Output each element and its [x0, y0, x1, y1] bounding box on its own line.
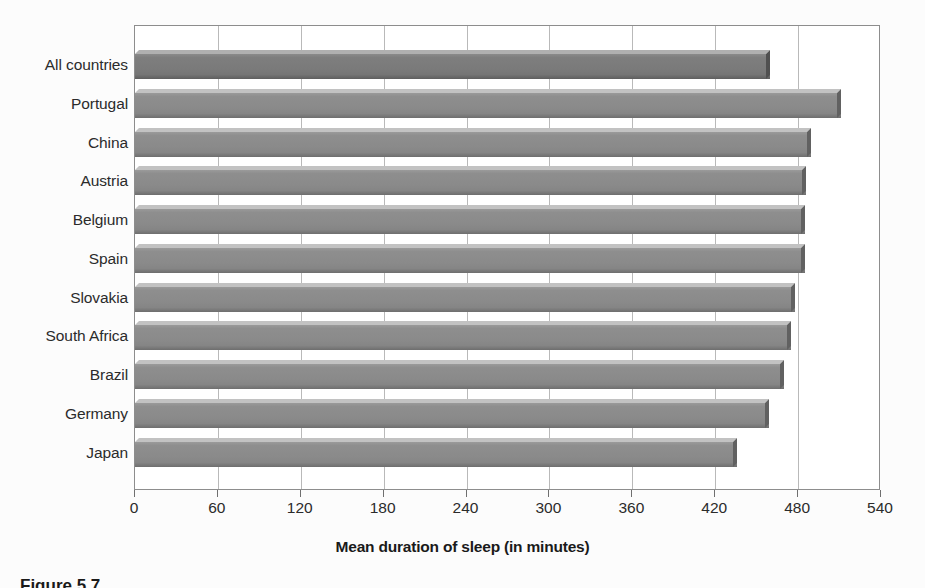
bar-row[interactable] [135, 205, 881, 235]
x-tick-label-240: 240 [453, 499, 479, 517]
y-axis-label-germany: Germany [0, 406, 128, 422]
y-axis-label-brazil: Brazil [0, 367, 128, 383]
x-tick-label-420: 420 [701, 499, 727, 517]
x-tick-label-120: 120 [287, 499, 313, 517]
x-tick-label-300: 300 [536, 499, 562, 517]
x-tick-mark-120 [300, 490, 301, 497]
y-axis-label-all-countries: All countries [0, 57, 128, 73]
bar-row[interactable] [135, 321, 881, 351]
plot-inner [135, 26, 879, 489]
x-tick-mark-300 [548, 490, 549, 497]
bar-south-africa[interactable] [135, 325, 791, 350]
x-tick-label-60: 60 [208, 499, 225, 517]
bar-row[interactable] [135, 166, 881, 196]
x-tick-mark-480 [797, 490, 798, 497]
bar-japan[interactable] [135, 442, 737, 467]
figure-caption: Figure 5.7 [20, 576, 100, 588]
x-tick-mark-420 [714, 490, 715, 497]
bar-row[interactable] [135, 89, 881, 119]
figure-container: All countriesPortugalChinaAustriaBelgium… [0, 0, 925, 588]
y-axis-label-slovakia: Slovakia [0, 290, 128, 306]
y-axis-label-austria: Austria [0, 173, 128, 189]
bar-slovakia[interactable] [135, 287, 795, 312]
x-tick-mark-180 [383, 490, 384, 497]
bar-row[interactable] [135, 438, 881, 468]
bar-austria[interactable] [135, 170, 806, 195]
y-axis-label-south-africa: South Africa [0, 328, 128, 344]
x-tick-label-0: 0 [130, 499, 139, 517]
bar-all-countries[interactable] [135, 54, 770, 79]
bar-row[interactable] [135, 399, 881, 429]
y-axis-label-portugal: Portugal [0, 96, 128, 112]
bar-germany[interactable] [135, 403, 769, 428]
y-axis-label-japan: Japan [0, 445, 128, 461]
y-axis-label-belgium: Belgium [0, 212, 128, 228]
x-tick-mark-540 [880, 490, 881, 497]
x-tick-label-540: 540 [867, 499, 893, 517]
y-axis-category-labels: All countriesPortugalChinaAustriaBelgium… [0, 25, 128, 490]
x-axis-title: Mean duration of sleep (in minutes) [0, 538, 925, 556]
x-tick-mark-0 [134, 490, 135, 497]
plot-area [134, 25, 880, 490]
bar-portugal[interactable] [135, 93, 841, 118]
x-tick-mark-360 [631, 490, 632, 497]
bar-row[interactable] [135, 360, 881, 390]
bar-row[interactable] [135, 50, 881, 80]
x-tick-label-480: 480 [784, 499, 810, 517]
y-axis-label-china: China [0, 135, 128, 151]
x-tick-label-360: 360 [618, 499, 644, 517]
bar-row[interactable] [135, 244, 881, 274]
bar-spain[interactable] [135, 248, 805, 273]
bar-china[interactable] [135, 132, 811, 157]
x-tick-mark-60 [217, 490, 218, 497]
bar-brazil[interactable] [135, 364, 784, 389]
x-tick-label-180: 180 [370, 499, 396, 517]
bar-row[interactable] [135, 283, 881, 313]
y-axis-label-spain: Spain [0, 251, 128, 267]
x-tick-mark-240 [466, 490, 467, 497]
bar-row[interactable] [135, 128, 881, 158]
bar-belgium[interactable] [135, 209, 805, 234]
